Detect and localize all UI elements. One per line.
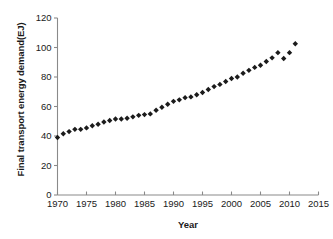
x-axis: 1970197519801985199019952000200520102015 [47, 192, 329, 210]
data-point [287, 50, 292, 55]
data-point [269, 55, 274, 60]
x-tick-label: 1995 [192, 198, 213, 209]
data-point [78, 127, 83, 132]
data-point [258, 63, 263, 68]
data-point [177, 97, 182, 102]
data-point [148, 111, 153, 116]
data-point [229, 76, 234, 81]
data-point [200, 90, 205, 95]
x-tick-label: 2000 [221, 198, 242, 209]
data-point [113, 116, 118, 121]
scatter-plot: 020406080100120 197019751980198519901995… [0, 0, 333, 239]
data-point [84, 125, 89, 130]
data-point [90, 123, 95, 128]
y-tick-label: 60 [41, 101, 52, 112]
x-tick-label: 1970 [47, 198, 68, 209]
data-point [235, 74, 240, 79]
data-point-series [55, 41, 298, 140]
y-tick-label: 100 [36, 42, 52, 53]
data-point [293, 41, 298, 46]
x-tick-label: 2015 [308, 198, 329, 209]
data-point [142, 112, 147, 117]
x-tick-label: 2005 [250, 198, 271, 209]
data-point [119, 116, 124, 121]
y-axis: 020406080100120 [36, 12, 58, 200]
data-point [275, 50, 280, 55]
data-point [61, 131, 66, 136]
data-point [217, 82, 222, 87]
x-tick-label: 1985 [134, 198, 155, 209]
data-point [95, 122, 100, 127]
data-point [124, 116, 129, 121]
y-tick-label: 120 [36, 12, 52, 23]
data-point [182, 95, 187, 100]
data-point [240, 71, 245, 76]
data-point [66, 129, 71, 134]
data-point [206, 87, 211, 92]
data-point [252, 65, 257, 70]
data-point [101, 119, 106, 124]
data-point [159, 105, 164, 110]
x-tick-label: 1990 [163, 198, 184, 209]
data-point [188, 94, 193, 99]
data-point [165, 102, 170, 107]
x-tick-label: 1980 [105, 198, 126, 209]
data-point [194, 92, 199, 97]
data-point [72, 127, 77, 132]
data-point [281, 56, 286, 61]
y-tick-label: 20 [41, 160, 52, 171]
data-point [171, 99, 176, 104]
data-point [136, 113, 141, 118]
y-tick-label: 80 [41, 71, 52, 82]
x-tick-label: 2010 [279, 198, 300, 209]
x-tick-label: 1975 [76, 198, 97, 209]
chart-figure: Final transport energy demand(EJ) Year 0… [0, 0, 333, 239]
y-tick-label: 40 [41, 130, 52, 141]
data-point [264, 59, 269, 64]
data-point [130, 114, 135, 119]
data-point [246, 68, 251, 73]
data-point [153, 107, 158, 112]
data-point [107, 118, 112, 123]
data-point [223, 79, 228, 84]
data-point [211, 84, 216, 89]
